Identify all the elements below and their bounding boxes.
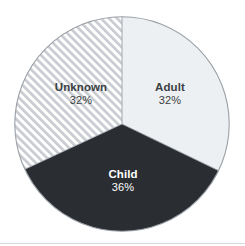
pie-label-adult-name: Adult	[155, 80, 185, 94]
pie-label-unknown-value: 32%	[55, 94, 107, 107]
pie-label-adult-value: 32%	[155, 94, 185, 107]
pie-label-adult: Adult 32%	[155, 80, 185, 107]
pie-chart-figure: Adult 32% Child 36% Unknown 32%	[0, 0, 245, 246]
pie-chart-graphic	[0, 0, 245, 246]
pie-label-unknown: Unknown 32%	[55, 80, 107, 107]
pie-label-child: Child 36%	[108, 167, 137, 194]
pie-label-child-name: Child	[108, 167, 137, 181]
pie-label-child-value: 36%	[108, 181, 137, 194]
pie-label-unknown-name: Unknown	[55, 80, 107, 94]
bottom-divider	[0, 243, 245, 244]
